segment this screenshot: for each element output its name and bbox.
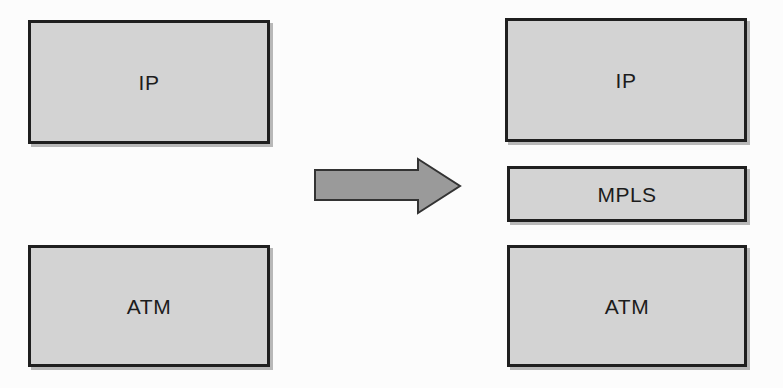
atm-box-after: ATM xyxy=(507,245,747,367)
protocol-stack-diagram: IP ATM IP MPLS ATM xyxy=(0,0,783,388)
atm-box-after-label: ATM xyxy=(605,296,649,317)
atm-box-before-label: ATM xyxy=(127,296,171,317)
ip-box-after-label: IP xyxy=(616,70,637,91)
atm-box-before: ATM xyxy=(28,245,270,367)
right-arrow-icon xyxy=(312,156,464,216)
ip-box-after: IP xyxy=(505,18,747,142)
ip-box-before-label: IP xyxy=(139,72,160,93)
mpls-box-after-label: MPLS xyxy=(597,184,656,205)
ip-box-before: IP xyxy=(28,20,270,144)
mpls-box-after: MPLS xyxy=(507,166,747,222)
